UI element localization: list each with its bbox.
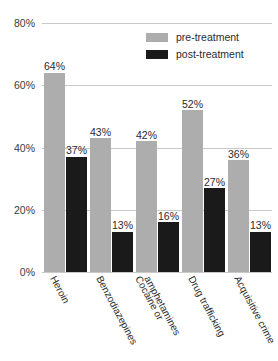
plot-area: 80% 60% 40% 20% 0% 64% 37% 43% [42, 23, 272, 272]
bar-post-drug-trafficking[interactable]: 27% [204, 188, 225, 272]
legend-item-post-treatment[interactable]: post-treatment [146, 47, 272, 62]
bar-chart: 80% 60% 40% 20% 0% 64% 37% 43% [0, 0, 278, 361]
gridline-0 [42, 272, 272, 273]
bar-value-post-drug-trafficking: 27% [204, 177, 225, 188]
legend-label-post-treatment: post-treatment [176, 49, 244, 60]
bar-post-heroin[interactable]: 37% [66, 157, 87, 272]
bar-pre-benzodiazepines[interactable]: 43% [90, 138, 111, 272]
legend-item-pre-treatment[interactable]: pre-treatment [146, 30, 272, 45]
bar-value-pre-acquisitive-crime: 36% [228, 149, 249, 160]
x-axis-labels: Heroin Benzodiazepines Cocaine or amphet… [42, 274, 272, 361]
bar-value-post-cocaine-or-amphetamines: 16% [158, 211, 179, 222]
x-tick-label-benzodiazepines: Benzodiazepines [94, 274, 139, 346]
bar-group-benzodiazepines: 43% 13% [90, 23, 134, 272]
bar-value-post-heroin: 37% [66, 145, 87, 156]
bar-pre-cocaine-or-amphetamines[interactable]: 42% [136, 141, 157, 272]
bar-group-heroin: 64% 37% [44, 23, 88, 272]
y-tick-label-60: 60% [14, 80, 42, 91]
bar-pre-acquisitive-crime[interactable]: 36% [228, 160, 249, 272]
y-tick-label-80: 80% [14, 18, 42, 29]
bar-value-pre-benzodiazepines: 43% [90, 127, 111, 138]
x-tick-label-drug-trafficking: Drug trafficking [186, 274, 227, 338]
y-tick-label-40: 40% [14, 142, 42, 153]
y-tick-label-0: 0% [20, 267, 42, 278]
bar-post-cocaine-or-amphetamines[interactable]: 16% [158, 222, 179, 272]
x-tick-label-acquisitive-crime: Acquisitive crime [232, 274, 277, 345]
bar-post-acquisitive-crime[interactable]: 13% [250, 232, 271, 273]
bar-value-pre-drug-trafficking: 52% [182, 99, 203, 110]
bar-pre-heroin[interactable]: 64% [44, 73, 65, 272]
y-tick-label-20: 20% [14, 205, 42, 216]
chart-legend: pre-treatment post-treatment [146, 30, 272, 64]
bar-value-pre-heroin: 64% [44, 61, 65, 72]
bar-pre-drug-trafficking[interactable]: 52% [182, 110, 203, 272]
bar-value-pre-cocaine-or-amphetamines: 42% [136, 130, 157, 141]
legend-label-pre-treatment: pre-treatment [176, 32, 239, 43]
legend-swatch-post-treatment [146, 50, 168, 59]
bar-value-post-acquisitive-crime: 13% [250, 220, 271, 231]
bar-post-benzodiazepines[interactable]: 13% [112, 232, 133, 273]
x-tick-label-heroin: Heroin [48, 274, 72, 305]
legend-swatch-pre-treatment [146, 33, 168, 42]
bar-value-post-benzodiazepines: 13% [112, 220, 133, 231]
